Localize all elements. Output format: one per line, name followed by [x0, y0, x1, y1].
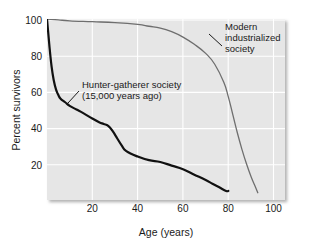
xtick-60: 60 [177, 203, 189, 214]
modern-label-line1: Modern [225, 21, 257, 32]
xtick-20: 20 [87, 203, 99, 214]
x-axis-title: Age (years) [139, 226, 193, 238]
y-axis-title: Percent survivors [10, 69, 22, 150]
hunter-gatherer-label-line2: (15,000 years ago) [82, 90, 162, 101]
survivorship-curve-figure: 100 80 60 40 20 20 40 60 80 100 Percent … [0, 0, 309, 249]
modern-label-line3: society [225, 43, 255, 54]
ytick-80: 80 [31, 51, 43, 62]
hunter-gatherer-label-line1: Hunter-gatherer society [82, 79, 182, 90]
ytick-20: 20 [31, 160, 43, 171]
ytick-60: 60 [31, 87, 43, 98]
xtick-40: 40 [132, 203, 144, 214]
ytick-40: 40 [31, 123, 43, 134]
ytick-100: 100 [25, 15, 42, 26]
xtick-100: 100 [265, 203, 282, 214]
xtick-80: 80 [223, 203, 235, 214]
modern-label-line2: industrialized [225, 32, 280, 43]
chart-svg: 100 80 60 40 20 20 40 60 80 100 Percent … [0, 0, 309, 249]
